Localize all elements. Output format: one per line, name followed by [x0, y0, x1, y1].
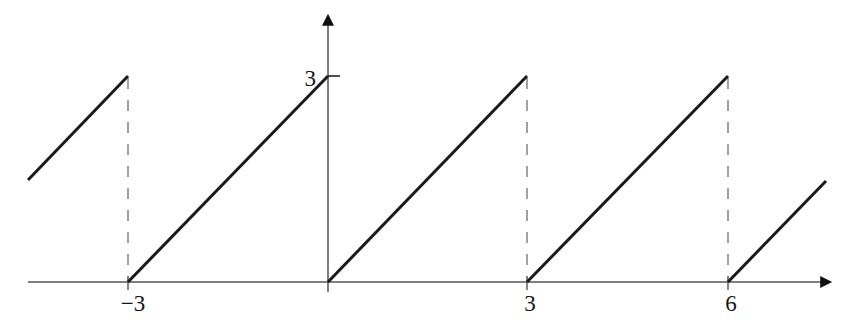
x-axis-tick-label-6: 6: [725, 292, 737, 315]
sawtooth-segment-5: [728, 181, 826, 282]
sawtooth-segment-4: [527, 76, 728, 282]
x-axis-tick-label-minus-3: −3: [121, 292, 145, 315]
plot-canvas: [0, 0, 860, 329]
sawtooth-segment-1: [28, 76, 128, 180]
x-axis-tick-label-3: 3: [524, 292, 536, 315]
sawtooth-segment-3: [328, 76, 527, 282]
sawtooth-segment-2: [128, 76, 328, 282]
sawtooth-figure: 3 −3 3 6: [0, 0, 860, 329]
y-axis-tick-label-3: 3: [305, 67, 317, 90]
